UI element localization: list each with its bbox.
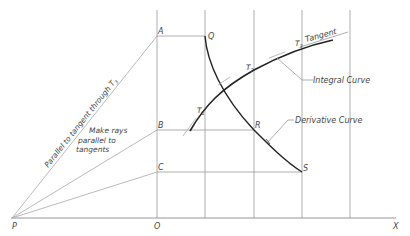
ray-p-c	[12, 172, 157, 218]
label-rays-note-2: parallel to	[77, 136, 116, 145]
label-q: Q	[208, 32, 214, 41]
label-parallel-note: Parallel to tangent through T3	[43, 76, 120, 169]
integral-leader	[277, 58, 313, 80]
label-t2: T2	[246, 63, 254, 73]
label-x: X	[392, 222, 399, 231]
label-o: O	[154, 222, 160, 231]
vertical-grid-lines	[157, 10, 350, 218]
label-t1: T1	[197, 106, 205, 116]
label-b: B	[158, 121, 164, 130]
label-rays-note-1: Make rays	[89, 126, 128, 135]
label-derivative-curve: Derivative Curve	[295, 116, 362, 125]
tangent-stroke-mid2	[269, 52, 285, 58]
label-rays-note-3: tangents	[76, 145, 109, 154]
label-p: P	[12, 222, 17, 231]
label-integral-curve: Integral Curve	[313, 76, 370, 85]
derivative-curve	[205, 36, 302, 172]
rays	[12, 36, 157, 218]
label-a: A	[157, 27, 163, 36]
tangent-stroke-t1	[183, 118, 196, 136]
label-r: R	[255, 121, 261, 130]
tangent-stroke-mid1	[218, 77, 230, 85]
label-c: C	[158, 163, 164, 172]
derivative-leader	[268, 120, 294, 142]
label-s: S	[303, 164, 308, 173]
integration-diagram: P O X A B C Q R S T1 T2 T3 Tangent Integ…	[0, 0, 410, 236]
label-tangent: Tangent	[304, 27, 338, 44]
leader-lines	[268, 58, 313, 142]
ray-p-a	[12, 36, 157, 218]
